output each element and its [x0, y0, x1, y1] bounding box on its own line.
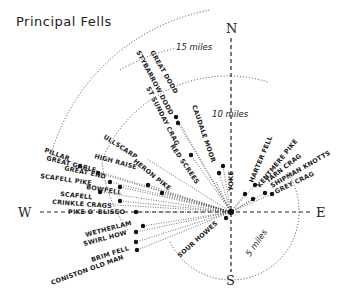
north-label: N	[226, 21, 237, 36]
fell-label: PIKE O' BLISCO	[68, 208, 125, 216]
south-label: S	[226, 273, 235, 288]
fells-compass-diagram: N S E W 15 miles 10 miles 5 miles	[0, 0, 341, 300]
ring-label-10: 10 miles	[212, 109, 249, 119]
ring-label-5: 5 miles	[243, 227, 269, 258]
fell-label: RED SCREES	[168, 143, 201, 186]
ring-label-15: 15 miles	[176, 42, 213, 52]
east-label: E	[316, 205, 326, 220]
fell-label: CONISTON OLD MAN	[50, 253, 125, 287]
west-label: W	[18, 205, 32, 220]
fell-label: YOKE	[227, 171, 235, 192]
